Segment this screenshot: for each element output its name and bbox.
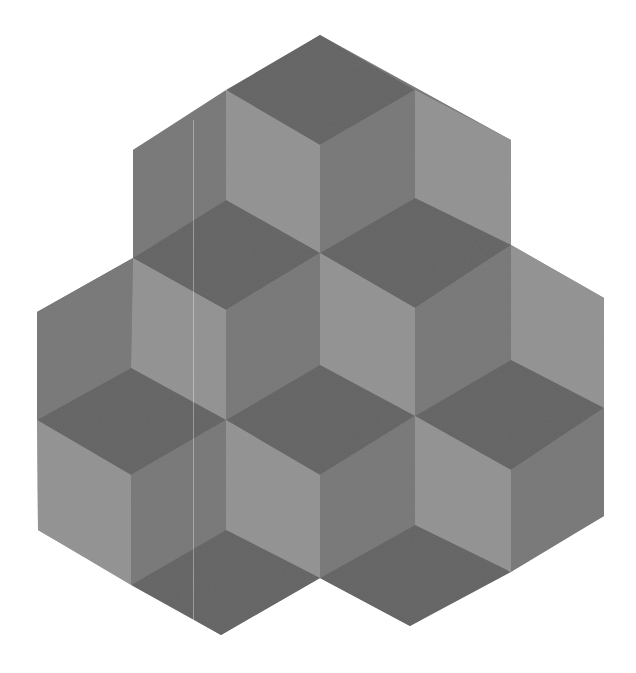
cube-faces — [37, 35, 604, 635]
scan-line-artifact — [193, 120, 194, 640]
isometric-cubes-figure — [0, 0, 636, 673]
